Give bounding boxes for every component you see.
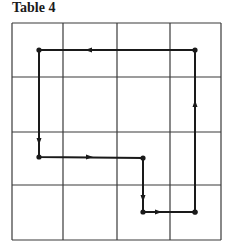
grid-lines bbox=[12, 23, 221, 240]
path-node-dot bbox=[36, 47, 41, 52]
path-node-dot bbox=[192, 209, 197, 214]
arrow-right-icon bbox=[86, 155, 93, 160]
arrow-down-icon bbox=[141, 195, 146, 202]
path-node-dot bbox=[140, 209, 145, 214]
arrow-down-icon bbox=[37, 138, 42, 145]
arrow-up-icon bbox=[193, 100, 198, 107]
path-node-dot bbox=[140, 155, 145, 160]
path-node-dot bbox=[36, 154, 41, 159]
grid-path-diagram bbox=[0, 0, 229, 251]
arrow-left-icon bbox=[85, 48, 92, 53]
arrow-right-icon bbox=[155, 210, 162, 215]
path-node-dot bbox=[192, 47, 197, 52]
